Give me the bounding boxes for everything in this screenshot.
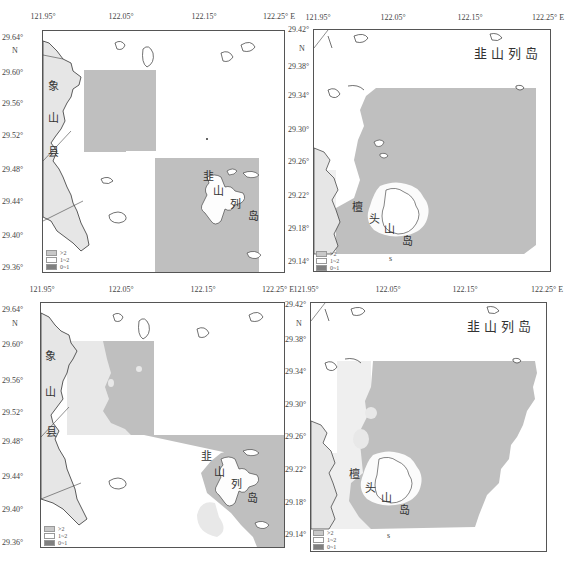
x-tick-label: 122.05° <box>380 13 405 22</box>
y-tick-label: 29.34° <box>285 367 306 376</box>
legend-label: 1~2 <box>327 537 336 543</box>
y-tick-label: 29.26° <box>285 432 306 441</box>
legend-swatch <box>46 250 57 256</box>
place-label-jiushan-2: 山 <box>213 186 224 197</box>
north-label: N <box>12 319 18 328</box>
y-tick-label: 29.30° <box>285 400 306 409</box>
legend-swatch <box>313 544 324 550</box>
map-graphic <box>314 30 551 272</box>
y-tick-label: 29.56° <box>2 376 23 385</box>
place-label-xiangshan-1: 象 <box>48 81 59 92</box>
x-tick-label: 122.25° E <box>532 13 564 22</box>
legend-swatch <box>313 530 324 536</box>
y-tick-label: 29.52° <box>2 131 23 140</box>
legend-swatch <box>313 537 324 543</box>
place-label-tantou-1: 檀 <box>352 202 363 213</box>
place-label-tantou-1: 檀 <box>349 469 360 480</box>
legend-label: 0~1 <box>58 540 67 546</box>
x-tick-label: 122.25° E <box>263 12 295 21</box>
place-label-jiushan-4: 岛 <box>247 493 258 504</box>
y-tick-label: 29.42° <box>285 300 306 309</box>
place-label-xiangshan-3: 县 <box>46 427 57 438</box>
legend-label: 1~2 <box>60 257 69 263</box>
place-label-jiushan-1: 韭 <box>203 171 214 182</box>
y-tick-label: 29.64° <box>2 33 23 42</box>
bottom-letter: s <box>387 531 390 540</box>
x-tick-label: 122.05° <box>375 285 400 294</box>
place-label-jiushan-4: 岛 <box>248 211 259 222</box>
y-tick-label: 29.60° <box>2 68 23 77</box>
y-tick-label: 29.42° <box>288 25 309 34</box>
legend-swatch <box>44 526 55 532</box>
map-legend: >2 1~2 0~1 <box>316 250 339 271</box>
place-label-jiushan-islands: 韭山列岛 <box>474 47 542 60</box>
y-tick-label: 29.22° <box>288 191 309 200</box>
y-tick-label: 29.14° <box>285 530 306 539</box>
y-tick-label: 29.60° <box>2 340 23 349</box>
y-tick-label: 29.22° <box>285 465 306 474</box>
map-graphic <box>311 303 547 552</box>
legend-label: >2 <box>58 526 64 532</box>
y-tick-label: 29.40° <box>2 231 23 240</box>
north-label: N <box>12 46 18 55</box>
x-tick-label: 122.25° E <box>262 285 294 294</box>
place-label-xiangshan-3: 县 <box>48 147 59 158</box>
y-tick-label: 29.48° <box>2 165 23 174</box>
map-frame: 象 山 县 韭 山 列 岛 >2 1~2 0~1 <box>42 30 285 273</box>
x-tick-label: 121.95° <box>29 285 54 294</box>
y-tick-label: 29.36° <box>2 263 23 272</box>
legend-swatch <box>316 265 327 271</box>
legend-label: 0~1 <box>327 544 336 550</box>
map-graphic <box>41 303 285 548</box>
x-tick-label: 121.95° <box>293 285 318 294</box>
y-tick-label: 29.44° <box>2 472 23 481</box>
legend-swatch <box>46 264 57 270</box>
x-tick-label: 122.15° <box>190 285 215 294</box>
place-label-jiushan-1: 韭 <box>201 451 212 462</box>
y-tick-label: 29.38° <box>285 335 306 344</box>
map-legend: >2 1~2 0~1 <box>313 529 336 550</box>
x-tick-label: 122.25° E <box>531 285 563 294</box>
place-label-jiushan-2: 山 <box>214 467 225 478</box>
place-label-xiangshan-2: 山 <box>48 113 59 124</box>
place-label-jiushan-3: 列 <box>230 199 241 210</box>
y-tick-label: 29.52° <box>2 408 23 417</box>
x-tick-label: 122.05° <box>108 12 133 21</box>
place-label-tantou-4: 岛 <box>402 236 413 247</box>
place-label-jiushan-islands: 韭山列岛 <box>467 320 535 333</box>
place-label-tantou-4: 岛 <box>399 505 410 516</box>
y-tick-label: 29.36° <box>2 538 23 547</box>
north-label: N <box>296 319 302 328</box>
map-legend: >2 1~2 0~1 <box>46 249 69 270</box>
legend-swatch <box>44 540 55 546</box>
bottom-letter: s <box>389 254 392 263</box>
legend-label: 1~2 <box>330 258 339 264</box>
place-label-tantou-2: 头 <box>365 483 376 494</box>
y-tick-label: 29.64° <box>2 305 23 314</box>
north-label: N <box>299 44 305 53</box>
y-tick-label: 29.44° <box>2 197 23 206</box>
map-frame: 韭山列岛 檀 头 山 岛 s >2 1~2 0~1 <box>310 302 547 552</box>
x-tick-label: 122.15° <box>452 285 477 294</box>
y-tick-label: 29.38° <box>288 62 309 71</box>
x-tick-label: 122.15° <box>191 12 216 21</box>
place-label-xiangshan-1: 象 <box>45 351 56 362</box>
place-label-tantou-3: 山 <box>384 224 395 235</box>
y-tick-label: 29.40° <box>2 505 23 514</box>
y-tick-label: 29.48° <box>2 437 23 446</box>
map-graphic <box>43 31 285 273</box>
x-tick-label: 121.95° <box>30 12 55 21</box>
legend-swatch <box>316 251 327 257</box>
place-label-jiushan-3: 列 <box>231 479 242 490</box>
legend-swatch <box>46 257 57 263</box>
legend-label: 0~1 <box>60 264 69 270</box>
legend-label: 1~2 <box>58 533 67 539</box>
y-tick-label: 29.56° <box>2 99 23 108</box>
place-label-xiangshan-2: 山 <box>45 387 56 398</box>
y-tick-label: 29.30° <box>288 125 309 134</box>
map-frame: 象 山 县 韭 山 列 岛 >2 1~2 0~1 <box>40 302 285 548</box>
y-tick-label: 29.34° <box>288 91 309 100</box>
y-tick-label: 29.18° <box>285 498 306 507</box>
x-tick-label: 122.15° <box>457 13 482 22</box>
legend-label: >2 <box>330 251 336 257</box>
